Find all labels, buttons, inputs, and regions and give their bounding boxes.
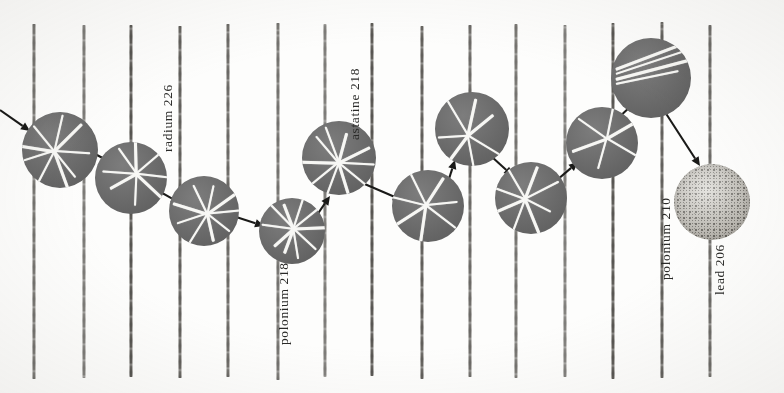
decay-track-disc: [95, 142, 167, 214]
arrow-shaft: [0, 110, 23, 126]
rod-grain: [82, 25, 87, 378]
rod-grain: [370, 23, 375, 376]
decay-track-disc: [611, 38, 691, 118]
alpha-track-disc: [392, 170, 464, 242]
alpha-track-disc: [302, 121, 376, 195]
alpha-track-disc: [169, 176, 239, 246]
isotope-label: lead 206: [712, 244, 728, 295]
disc-shading: [674, 164, 750, 240]
alpha-track-disc: [95, 142, 167, 214]
isotope-label: radium 226: [160, 84, 176, 152]
decay-track-disc: [259, 198, 325, 264]
vertical-rod: [82, 25, 87, 378]
decay-track-disc: [495, 162, 567, 234]
alpha-track-disc: [611, 38, 691, 118]
alpha-track-disc: [22, 112, 98, 188]
arrow-shaft: [665, 112, 695, 158]
alpha-track-disc: [259, 198, 325, 264]
decay-chain-figure: radium 226polonium 218astatine 218poloni…: [0, 0, 784, 393]
decay-track-disc: [674, 164, 750, 240]
vertical-rod: [370, 23, 375, 376]
alpha-track-disc: [435, 92, 509, 166]
isotope-label: polonium 210: [658, 197, 674, 280]
isotope-label: polonium 218: [276, 262, 292, 345]
rod-grain: [32, 24, 35, 379]
decay-track-disc: [302, 121, 376, 195]
vertical-rod: [32, 24, 35, 379]
rod-grain: [468, 25, 472, 377]
decay-track-disc: [435, 92, 509, 166]
decay-track-disc: [22, 112, 98, 188]
decay-track-disc: [169, 176, 239, 246]
decay-arrow: [665, 112, 700, 166]
disc-shading: [495, 162, 567, 234]
decay-track-disc: [392, 170, 464, 242]
isotope-label: astatine 218: [347, 68, 363, 140]
stable-lead-disc: [674, 164, 750, 240]
alpha-track-disc: [495, 162, 567, 234]
vertical-rod: [468, 25, 472, 377]
